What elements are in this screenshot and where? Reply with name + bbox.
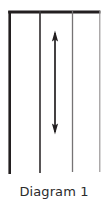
- figure-caption: Diagram 1: [0, 184, 108, 199]
- diagram-figure: Diagram 1: [0, 0, 108, 216]
